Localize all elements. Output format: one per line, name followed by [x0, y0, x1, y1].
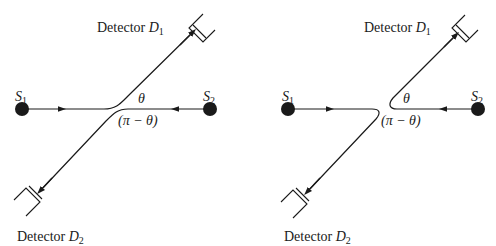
detector-d2-icon — [281, 188, 309, 218]
detector-d1-icon — [452, 15, 478, 42]
right-detector-d2-label: Detector D2 — [284, 230, 351, 246]
left-angle-pi-minus-theta: (π − θ) — [118, 114, 158, 128]
scattering-diagrams: Detector D1 S1 S2 θ (π − θ) Detector D2 … — [0, 0, 496, 246]
d2-arrow — [307, 178, 320, 192]
left-source-s1-label: S1 — [15, 90, 27, 106]
right-source-s1-label: S1 — [282, 90, 294, 106]
right-angle-pi-minus-theta: (π − θ) — [381, 114, 421, 128]
left-detector-d2-label: Detector D2 — [17, 230, 84, 246]
left-diagram — [14, 14, 217, 216]
left-angle-theta: θ — [138, 92, 145, 106]
left-detector-d1-label: Detector D1 — [97, 21, 164, 37]
d1-arrow — [444, 35, 456, 47]
detector-d1-icon — [189, 14, 215, 42]
right-detector-d1-label: Detector D1 — [364, 21, 431, 37]
s2-to-d1-path — [390, 35, 456, 109]
detector-d2-icon — [14, 186, 42, 216]
s1-to-d1-path — [60, 32, 193, 109]
right-angle-theta: θ — [403, 92, 410, 106]
d2-arrow — [40, 178, 52, 191]
d1-arrow — [180, 32, 193, 45]
right-source-s2-label: S2 — [471, 90, 483, 106]
left-source-s2-label: S2 — [203, 90, 215, 106]
